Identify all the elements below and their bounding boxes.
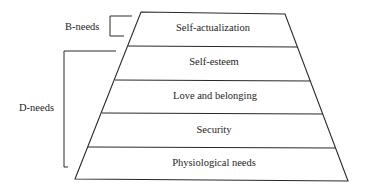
b-needs-bracket: [110, 16, 132, 36]
level-security: Security: [197, 124, 232, 136]
divider-3: [102, 113, 323, 114]
divider-1: [128, 46, 298, 47]
divider-2: [115, 80, 311, 81]
b-needs-label: B-needs: [65, 21, 99, 33]
level-self-actualization: Self-actualization: [176, 22, 250, 34]
divider-4: [88, 147, 336, 148]
d-needs-bracket: [64, 51, 116, 167]
level-love-and-belonging: Love and belonging: [173, 90, 257, 102]
needs-hierarchy-diagram: Self-actualization Self-esteem Love and …: [0, 0, 366, 192]
d-needs-label: D-needs: [19, 102, 54, 114]
level-physiological-needs: Physiological needs: [172, 157, 256, 169]
level-self-esteem: Self-esteem: [189, 56, 239, 68]
